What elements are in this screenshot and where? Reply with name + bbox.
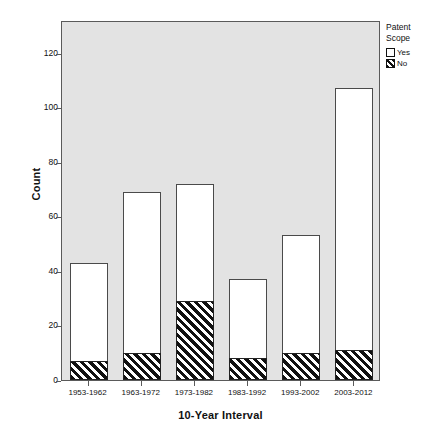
bar-segment-no-1983-1992[interactable] [229, 358, 267, 380]
legend-title-line-2: Scope [386, 33, 441, 44]
x-tick-mark-1953-1962 [88, 381, 89, 386]
legend-label-yes: Yes [397, 49, 410, 57]
bar-segment-no-1963-1972[interactable] [123, 353, 161, 380]
legend-item-no: No [386, 59, 441, 68]
bar-group-2003-2012[interactable] [335, 88, 373, 380]
x-axis-title: 10-Year Interval [61, 409, 380, 421]
bar-segment-no-2003-2012[interactable] [335, 350, 373, 380]
y-tick-label-40: 40 [0, 267, 58, 276]
y-tick-label-60: 60 [0, 212, 58, 221]
legend: Patent Scope Yes No [386, 22, 441, 70]
bar-segment-no-1953-1962[interactable] [70, 361, 108, 380]
legend-label-no: No [397, 60, 407, 68]
bar-group-1973-1982[interactable] [176, 184, 214, 380]
y-tick-mark-0 [56, 381, 61, 382]
y-tick-label-120: 120 [0, 49, 58, 58]
y-tick-label-80: 80 [0, 158, 58, 167]
bar-segment-yes-2003-2012[interactable] [335, 88, 373, 380]
y-tick-label-100: 100 [0, 103, 58, 112]
bar-segment-no-1993-2002[interactable] [282, 353, 320, 380]
legend-title-line-1: Patent [386, 22, 441, 33]
bar-group-1983-1992[interactable] [229, 279, 267, 380]
x-tick-mark-1983-1992 [247, 381, 248, 386]
x-tick-mark-2003-2012 [353, 381, 354, 386]
y-axis-title: Count [30, 124, 42, 244]
bar-segment-no-1973-1982[interactable] [176, 301, 214, 380]
x-tick-label-2003-2012: 2003-2012 [321, 389, 385, 398]
x-tick-mark-1963-1972 [141, 381, 142, 386]
y-tick-label-20: 20 [0, 321, 58, 330]
bar-group-1963-1972[interactable] [123, 192, 161, 380]
bar-group-1993-2002[interactable] [282, 235, 320, 380]
x-tick-mark-1973-1982 [194, 381, 195, 386]
plot-area [61, 21, 380, 381]
white-square-icon [386, 48, 395, 57]
legend-item-yes: Yes [386, 48, 441, 57]
x-tick-mark-1993-2002 [300, 381, 301, 386]
y-tick-label-0: 0 [0, 376, 58, 385]
bar-group-1953-1962[interactable] [70, 263, 108, 380]
hatched-square-icon [386, 59, 395, 68]
legend-title: Patent Scope [386, 22, 441, 43]
bar-chart-figure: Count 020406080100120 1953-19621963-1972… [0, 0, 441, 439]
